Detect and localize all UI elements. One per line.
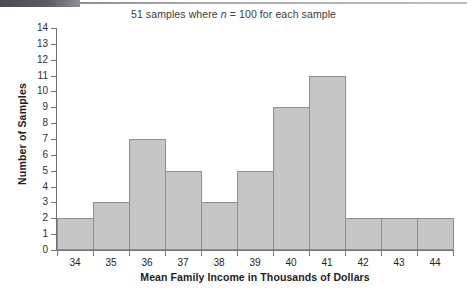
histogram-bar [93,202,130,250]
y-tick-4 [51,187,56,188]
x-tick-label-35: 35 [93,257,129,268]
y-tick-8 [51,123,56,124]
y-tick-label-2: 2 [22,213,48,223]
y-tick-11 [51,76,56,77]
y-tick-label-13: 13 [22,39,48,49]
x-tick-label-42: 42 [345,257,381,268]
y-tick-label-1: 1 [22,229,48,239]
x-tick-edge-7 [309,251,310,256]
histogram-bar [381,218,418,250]
histogram-bar [309,76,346,250]
x-tick-edge-6 [273,251,274,256]
chart-title: 51 samples where n = 100 for each sample [0,8,467,20]
x-tick-edge-0 [57,251,58,256]
histogram-bar [417,218,454,250]
y-tick-label-11: 11 [22,71,48,81]
x-tick-label-40: 40 [273,257,309,268]
x-tick-label-38: 38 [201,257,237,268]
histogram-bar [201,202,238,250]
x-tick-label-44: 44 [417,257,453,268]
y-tick-label-9: 9 [22,102,48,112]
histogram-bar [237,171,274,250]
y-tick-6 [51,155,56,156]
y-tick-label-7: 7 [22,134,48,144]
x-tick-label-37: 37 [165,257,201,268]
y-tick-label-0: 0 [22,245,48,255]
x-tick-edge-5 [237,251,238,256]
y-tick-label-3: 3 [22,197,48,207]
y-tick-14 [51,28,56,29]
histogram-bar [57,218,94,250]
x-tick-edge-10 [417,251,418,256]
y-tick-0 [51,250,56,251]
histogram-bar [273,107,310,250]
plot-area [57,28,453,250]
x-tick-label-43: 43 [381,257,417,268]
x-tick-edge-4 [201,251,202,256]
x-tick-edge-8 [345,251,346,256]
y-tick-label-6: 6 [22,150,48,160]
y-tick-9 [51,107,56,108]
y-tick-7 [51,139,56,140]
x-tick-label-41: 41 [309,257,345,268]
chart-title-suffix: = 100 for each sample [227,8,336,20]
y-tick-label-10: 10 [22,86,48,96]
x-tick-edge-1 [93,251,94,256]
y-tick-2 [51,218,56,219]
y-tick-1 [51,234,56,235]
y-tick-label-4: 4 [22,182,48,192]
y-tick-label-12: 12 [22,55,48,65]
x-tick-edge-11 [453,251,454,256]
histogram-bar [345,218,382,250]
x-tick-edge-3 [165,251,166,256]
x-tick-label-39: 39 [237,257,273,268]
x-tick-label-36: 36 [129,257,165,268]
x-tick-edge-9 [381,251,382,256]
y-tick-label-14: 14 [22,23,48,33]
x-axis-line [56,250,454,251]
y-tick-label-5: 5 [22,166,48,176]
x-axis-title: Mean Family Income in Thousands of Dolla… [57,271,453,283]
page-header-rule [78,2,467,4]
y-tick-10 [51,91,56,92]
histogram-bar [165,171,202,250]
x-tick-edge-2 [129,251,130,256]
y-tick-5 [51,171,56,172]
y-tick-12 [51,60,56,61]
page-header-band [0,0,80,7]
y-tick-13 [51,44,56,45]
chart-title-prefix: 51 samples where [131,8,221,20]
histogram-bar [129,139,166,250]
histogram-figure: 51 samples where n = 100 for each sample… [0,0,467,297]
y-tick-label-8: 8 [22,118,48,128]
x-tick-label-34: 34 [57,257,93,268]
y-tick-3 [51,202,56,203]
